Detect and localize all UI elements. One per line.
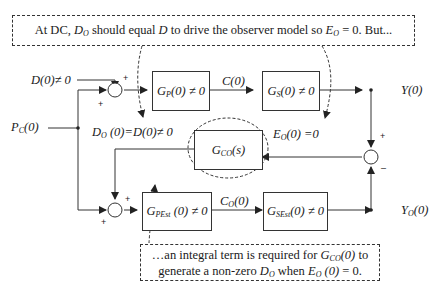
bottom-note: …an integral term is required for GCO(0)… [140,244,380,281]
summing-junction-model [108,203,122,217]
label-observer-disturbance: DO (0)=D(0)≠ 0 [92,126,173,140]
sign-plus-command-lower: + [101,218,106,227]
label-control-c: C(0) [222,75,245,88]
block-sensor-estimate-gsest: GSEst(0) ≠ 0 [263,192,328,231]
summing-junction-plant [108,83,122,97]
label-observer-error: EO(0) =0 [273,128,319,142]
label-command: PC(0) [11,121,39,135]
block-plant-gp: GP(0) ≠ 0 [152,71,210,111]
label-observer-output: YO(0) [401,204,428,218]
sign-plus-y: + [380,132,385,141]
block-gsest-label: GSEst(0) ≠ 0 [267,204,324,219]
sign-plus-command: + [98,100,103,109]
summing-junction-error [364,150,378,164]
bottom-note-line1: …an integral term is required for GCO(0)… [141,248,379,264]
top-note-text: At DC, DO should equal D to drive the ob… [35,23,393,39]
bottom-note-line2: generate a non-zero DO when EO (0) = 0. [141,264,379,280]
block-plant-estimate-gpest: GPEst (0) ≠ 0 [142,192,212,231]
block-gco-label: GCO(s) [212,143,245,158]
label-output-y: Y(0) [401,84,423,97]
block-gpest-label: GPEst (0) ≠ 0 [146,204,207,219]
block-sensor-gs-label: GS(0) ≠ 0 [268,84,315,99]
label-observer-control: CO(0) [220,195,249,209]
label-disturbance: D(0)≠ 0 [31,74,71,87]
block-sensor-gs: GS(0) ≠ 0 [262,71,320,111]
sign-minus-yo: – [381,164,386,173]
top-note: At DC, DO should equal D to drive the ob… [12,15,415,46]
sign-plus-feedback: + [125,195,130,204]
sign-plus-disturbance: + [123,74,128,83]
block-plant-gp-label: GP(0) ≠ 0 [157,84,205,99]
block-observer-compensator-gco: GCO(s) [194,130,263,170]
